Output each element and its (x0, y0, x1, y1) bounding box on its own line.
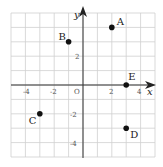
point-label-d: D (130, 129, 138, 140)
point-b (66, 39, 72, 45)
point-label-c: C (29, 115, 37, 126)
x-tick-neg2: -2 (50, 88, 57, 96)
point-c (37, 111, 43, 117)
y-tick-neg4: -4 (70, 140, 77, 148)
y-tick-neg2: -2 (70, 111, 77, 119)
y-axis-label: y (73, 9, 80, 20)
y-tick-2: 2 (75, 53, 79, 61)
x-tick-4: 4 (137, 88, 142, 96)
point-label-e: E (128, 71, 135, 82)
coordinate-plane: x y O -4 -2 2 4 2 -2 -4 ABCDE (0, 0, 163, 167)
x-tick-neg4: -4 (23, 88, 30, 96)
point-e (123, 82, 129, 88)
origin-label: O (74, 88, 80, 96)
point-label-b: B (59, 31, 66, 42)
points: ABCDE (29, 16, 138, 140)
x-tick-2: 2 (109, 88, 113, 96)
point-d (123, 125, 129, 131)
x-axis-label: x (147, 86, 153, 97)
point-a (109, 25, 115, 31)
point-label-a: A (116, 16, 125, 27)
